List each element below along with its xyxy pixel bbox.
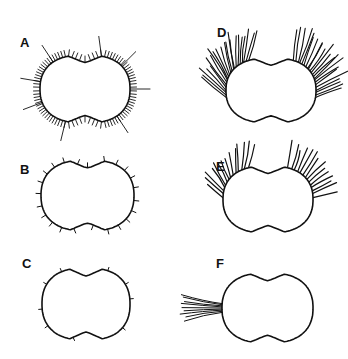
cilium (238, 35, 239, 65)
cilium (203, 75, 226, 95)
cilium (35, 78, 41, 80)
cilium (50, 116, 54, 121)
long-spine (99, 36, 102, 56)
cilium (288, 140, 293, 168)
cilium (92, 53, 95, 59)
cilium (130, 81, 136, 82)
cilium (129, 99, 135, 101)
cell-body-b (41, 161, 134, 229)
cilium (38, 106, 44, 109)
cilium (115, 55, 118, 61)
cilium (117, 57, 121, 62)
cilium (110, 52, 112, 58)
cilium (313, 192, 337, 198)
cilium (55, 119, 58, 125)
cilium (34, 94, 41, 95)
cilium (236, 149, 237, 173)
cilium (72, 121, 74, 127)
cilium (112, 54, 115, 60)
cilium (107, 51, 109, 57)
cell-diagram-figure: A B C D E F (0, 0, 348, 359)
cell-body-c (42, 269, 130, 338)
cilium (34, 96, 40, 97)
cilium (79, 55, 81, 61)
cilium (244, 141, 249, 169)
cilium (126, 106, 132, 109)
cilium (105, 51, 107, 57)
cilium (88, 117, 90, 123)
cilium (129, 78, 135, 80)
cilium (130, 96, 136, 97)
cilium (96, 52, 98, 58)
long-spine (21, 78, 41, 81)
cilium (38, 69, 44, 72)
panel-label-b: B (20, 163, 29, 176)
panel-label-e: E (216, 160, 225, 173)
long-spine (122, 52, 136, 66)
cilium (107, 120, 109, 126)
cell-body-d (226, 59, 316, 122)
cilium (292, 145, 299, 169)
cilium (249, 145, 255, 168)
diagram-canvas (0, 0, 348, 359)
cilium (75, 119, 78, 125)
cilium (126, 69, 132, 72)
panel-label-a: A (20, 36, 29, 49)
cilium (115, 117, 118, 123)
panel-label-c: C (22, 257, 31, 270)
cilium (35, 99, 41, 101)
cilium (244, 29, 249, 62)
cilium (237, 144, 239, 172)
cilium (236, 36, 237, 67)
cilium (314, 55, 338, 79)
cilium (128, 75, 134, 77)
cilium (69, 122, 70, 129)
cilium (58, 52, 60, 58)
cell-body-e (223, 167, 313, 232)
cilium (69, 50, 70, 57)
cilium (130, 94, 137, 95)
cilium (183, 297, 222, 305)
cilium (58, 120, 60, 126)
cilium (229, 153, 233, 176)
cilium (64, 51, 66, 57)
cilium (242, 142, 245, 170)
cilium (79, 117, 81, 123)
cell-body-f (222, 274, 313, 341)
cilium (315, 58, 343, 80)
cell-body-a (40, 56, 130, 121)
cilium (75, 53, 78, 59)
cilium (36, 75, 42, 77)
cilium (55, 54, 58, 60)
cilium (96, 121, 98, 127)
cilium (112, 119, 115, 125)
panel-label-d: D (217, 26, 226, 39)
cilium (61, 120, 63, 126)
cilium (101, 122, 102, 129)
cilium (228, 32, 234, 68)
cilium (127, 72, 133, 75)
cilium (37, 72, 43, 75)
cilium (127, 104, 133, 107)
cilium (105, 121, 107, 127)
cilium (61, 51, 63, 57)
cilium (110, 120, 112, 126)
cilium (128, 101, 134, 103)
cilium (130, 84, 137, 85)
cilium (52, 55, 55, 61)
cilium (92, 119, 95, 125)
cilium (225, 159, 231, 178)
cilium (34, 84, 41, 85)
cilium (72, 52, 74, 58)
cilium (88, 55, 90, 61)
panel-label-f: F (216, 257, 224, 270)
cilium (52, 117, 55, 123)
